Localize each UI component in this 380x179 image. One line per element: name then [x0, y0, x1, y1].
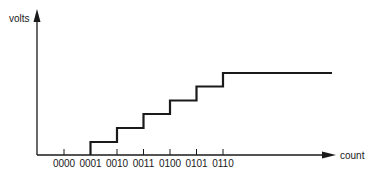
staircase-waveform [91, 73, 333, 155]
tick-label: 0010 [106, 158, 129, 169]
x-axis-tick-labels: 0000 0001 0010 0011 0100 0101 0110 [53, 158, 234, 169]
tick-label: 0101 [185, 158, 208, 169]
staircase-diagram: volts count 0000 0001 0010 0011 0100 010… [0, 0, 380, 179]
tick-label: 0011 [133, 158, 155, 169]
tick-label: 0110 [212, 158, 234, 169]
tick-label: 0100 [159, 158, 182, 169]
x-axis-arrow-icon [322, 152, 336, 159]
y-axis-label: volts [9, 13, 30, 24]
y-axis-arrow-icon [34, 9, 41, 22]
x-axis-label: count [340, 150, 365, 161]
tick-label: 0001 [79, 158, 102, 169]
tick-label: 0000 [53, 158, 76, 169]
x-axis-ticks [64, 149, 223, 155]
